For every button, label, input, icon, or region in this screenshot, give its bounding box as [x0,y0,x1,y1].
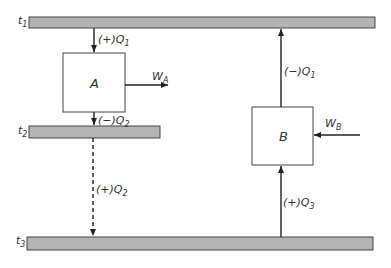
reservoir-t3 [27,237,373,250]
label-t1: t1 [18,14,27,29]
label-work-b: WB [325,117,341,132]
label-t3: t3 [16,234,25,249]
label-t2: t2 [18,124,27,139]
label-q2-out-a: (−)Q2 [98,114,130,129]
label-q3-into-b: (+)Q3 [283,196,315,211]
label-q1-out-b: (−)Q1 [284,65,316,80]
label-q1-into-a: (+)Q1 [98,33,130,48]
label-q2-into-t3: (+)Q2 [96,183,128,198]
heat-engine-diagram: t1 t2 t3 A B (+)Q1 (−)Q2 WA (+)Q2 (−)Q1 … [0,0,391,268]
engine-a-label: A [89,76,99,91]
engine-b-label: B [279,129,288,144]
label-work-a: WA [152,70,168,85]
reservoir-t1 [29,17,375,28]
reservoir-t2 [29,126,160,138]
